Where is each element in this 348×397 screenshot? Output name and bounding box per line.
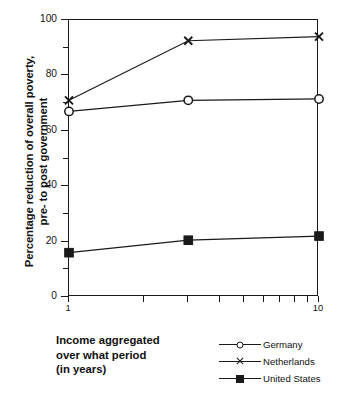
legend-item-united-states[interactable]: United States xyxy=(217,370,348,387)
legend-marker-open-circle-icon xyxy=(217,336,263,353)
legend-label: Netherlands xyxy=(263,356,315,367)
y-tick-label-60: 60 xyxy=(30,125,57,135)
legend-marker-cross-icon xyxy=(217,353,263,370)
legend-label: United States xyxy=(263,373,321,384)
legend-item-netherlands[interactable]: Netherlands xyxy=(217,353,348,370)
y-tick-0 xyxy=(61,296,68,297)
series-united-states xyxy=(65,232,324,257)
x-axis-title: Income aggregated over what period (in y… xyxy=(56,333,206,377)
y-tick-label-0: 0 xyxy=(30,291,57,301)
chart-legend: GermanyNetherlandsUnited States xyxy=(217,336,348,387)
x-tick-label-10: 10 xyxy=(308,303,328,313)
y-tick-label-100: 100 xyxy=(30,14,57,24)
y-tick-60 xyxy=(61,130,68,131)
y-tick-label-40: 40 xyxy=(30,180,57,190)
series-canvas xyxy=(69,20,319,297)
legend-label: Germany xyxy=(263,339,302,350)
series-netherlands xyxy=(65,33,323,105)
legend-marker-filled-square-icon xyxy=(217,370,263,387)
chart-figure: Percentage reduction of overall poverty,… xyxy=(0,0,348,397)
y-tick-label-20: 20 xyxy=(30,236,57,246)
y-tick-20 xyxy=(61,241,68,242)
y-tick-100 xyxy=(61,19,68,20)
x-tick-label-1: 1 xyxy=(58,303,78,313)
y-tick-label-80: 80 xyxy=(30,69,57,79)
legend-item-germany[interactable]: Germany xyxy=(217,336,348,353)
y-tick-40 xyxy=(61,185,68,186)
y-tick-80 xyxy=(61,74,68,75)
plot-area xyxy=(68,19,318,296)
series-germany xyxy=(65,95,323,116)
